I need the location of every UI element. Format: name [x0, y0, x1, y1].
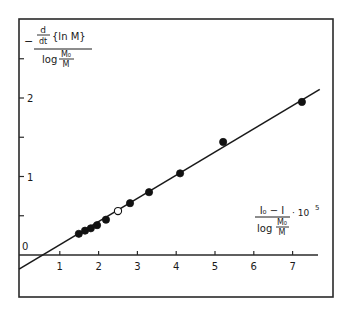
filled-data-point	[102, 216, 109, 223]
filled-data-point	[145, 189, 152, 196]
open-data-point	[114, 207, 121, 214]
x-tick-label: 1	[57, 261, 63, 272]
fit-line	[19, 89, 320, 269]
x-axis-label: I₀ − I · 10 5 log M₀ M	[255, 204, 319, 237]
y-tick-label: 2	[27, 93, 33, 104]
svg-text:d: d	[40, 25, 46, 35]
chart: 0123456712 − d dt {ln M} log M₀ M I₀ − I…	[0, 0, 349, 313]
y-tick-label: 1	[27, 172, 33, 183]
x-tick-label: 6	[251, 261, 257, 272]
filled-data-point	[298, 98, 305, 105]
svg-text:log: log	[42, 54, 57, 65]
y-axis-label: − d dt {ln M} log M₀ M	[24, 25, 92, 69]
svg-text:· 10: · 10	[292, 208, 309, 218]
svg-text:M: M	[63, 60, 70, 69]
filled-data-point	[93, 222, 100, 229]
svg-text:5: 5	[315, 204, 319, 212]
svg-text:{ln M}: {ln M}	[52, 31, 86, 42]
svg-text:−: −	[24, 35, 33, 48]
x-tick-label: 5	[212, 261, 218, 272]
svg-text:dt: dt	[39, 37, 47, 46]
filled-data-point	[220, 138, 227, 145]
filled-data-point	[126, 200, 133, 207]
svg-text:M₀: M₀	[277, 218, 287, 227]
filled-data-point	[176, 170, 183, 177]
svg-text:M₀: M₀	[61, 50, 71, 59]
axes: 0123456712	[19, 59, 318, 272]
x-tick-label: 7	[289, 261, 295, 272]
x-tick-label: 2	[95, 261, 101, 272]
x-tick-label: 3	[134, 261, 140, 272]
svg-text:log: log	[257, 223, 272, 234]
svg-text:I₀ − I: I₀ − I	[260, 205, 285, 216]
svg-text:M: M	[279, 228, 286, 237]
x-tick-label: 4	[173, 261, 179, 272]
origin-label: 0	[22, 241, 28, 252]
